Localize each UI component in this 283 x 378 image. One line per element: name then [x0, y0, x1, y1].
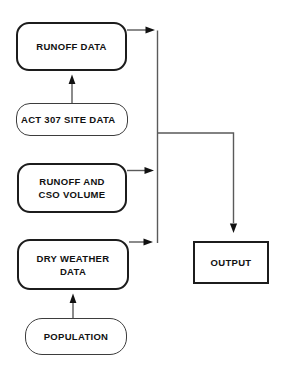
node-output-label: OUTPUT — [211, 256, 252, 269]
arrowhead-up-act-307 — [69, 75, 76, 85]
node-dry-weather-data-label-line2: DATA — [60, 265, 86, 278]
arrowhead-right-runoff-data — [146, 27, 156, 34]
collector-to-output-line — [158, 133, 234, 223]
arrowhead-right-runoff-cso — [145, 167, 155, 174]
arrowhead-down-output — [230, 224, 237, 234]
node-runoff-cso-volume-label-line1: RUNOFF AND — [39, 175, 104, 188]
flowchart-canvas: RUNOFF DATA ACT 307 SITE DATA RUNOFF AND… — [0, 0, 283, 378]
arrowhead-right-dry-weather — [144, 239, 154, 246]
node-population: POPULATION — [25, 318, 127, 355]
node-runoff-data: RUNOFF DATA — [16, 22, 127, 71]
arrowhead-up-population — [70, 294, 77, 304]
node-runoff-cso-volume-label-line2: CSO VOLUME — [39, 188, 106, 201]
node-dry-weather-data-label-line1: DRY WEATHER — [37, 252, 110, 265]
node-population-label: POPULATION — [44, 330, 109, 343]
node-output: OUTPUT — [193, 241, 269, 284]
node-dry-weather-data: DRY WEATHER DATA — [17, 239, 129, 290]
node-act-307-site-data: ACT 307 SITE DATA — [16, 103, 128, 136]
node-runoff-data-label: RUNOFF DATA — [36, 40, 107, 53]
node-runoff-cso-volume: RUNOFF AND CSO VOLUME — [17, 163, 127, 213]
node-act-307-site-data-label: ACT 307 SITE DATA — [21, 113, 115, 126]
